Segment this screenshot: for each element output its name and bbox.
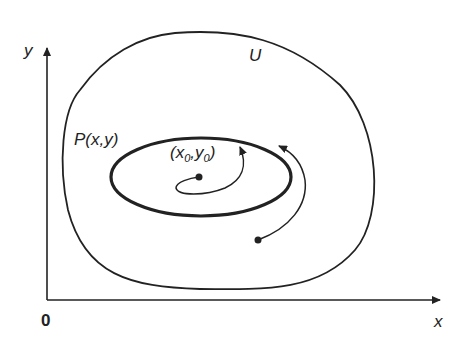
origin-label: 0: [41, 311, 50, 330]
region-u-label: U: [249, 46, 262, 65]
equilibrium-label: (x0,y0): [170, 143, 215, 164]
limit-cycle-label: P(x,y): [74, 130, 118, 149]
outer-start-point: [255, 237, 262, 244]
x-axis-label: x: [433, 312, 443, 331]
phase-diagram: y x 0 U P(x,y) (x0,y0): [0, 0, 466, 354]
equilibrium-point: [196, 174, 203, 181]
region-u-boundary: [63, 32, 375, 289]
axes: [47, 48, 440, 300]
y-axis-label: y: [23, 41, 34, 60]
